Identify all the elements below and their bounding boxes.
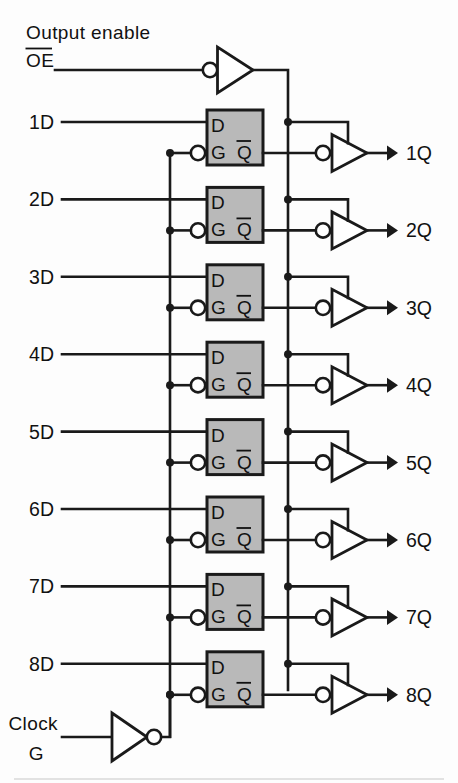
q-output-arrow-icon	[387, 300, 398, 315]
output-enable-label: Output enable	[26, 22, 151, 43]
input-label-3d: 3D	[29, 266, 54, 288]
output-label-2q: 2Q	[406, 219, 432, 241]
latch-gate-bubble	[191, 146, 205, 160]
output-label-1q: 1Q	[406, 142, 432, 164]
latch-pin-d: D	[211, 579, 225, 600]
gate-bus-junction	[166, 226, 174, 234]
latch-pin-qbar: Q	[237, 297, 252, 318]
latch-gate-bubble	[191, 533, 205, 547]
output-enable-pin-label: OE	[26, 50, 54, 71]
output-enable-inverter-bubble	[203, 63, 217, 77]
output-enable-bus-junction	[284, 428, 292, 436]
output-enable-bus-junction	[284, 195, 292, 203]
latch-pin-qbar: Q	[237, 219, 252, 240]
output-enable-bus-junction	[284, 350, 292, 358]
latch-gate-bubble	[191, 378, 205, 392]
output-buffer-bubble	[316, 533, 330, 547]
output-label-3q: 3Q	[406, 297, 432, 319]
gate-bus-junction	[166, 613, 174, 621]
latch-stage: DGQ	[62, 187, 398, 249]
gate-bus-junction	[166, 459, 174, 467]
latch-pin-d: D	[211, 115, 225, 136]
output-label-6q: 6Q	[406, 529, 432, 551]
latch-pin-g: G	[211, 142, 226, 163]
output-buffer-icon	[332, 135, 367, 172]
q-output-arrow-icon	[387, 533, 398, 548]
latch-stage: DGQ	[62, 574, 398, 636]
output-buffer-icon	[332, 444, 367, 481]
output-enable-bus-junction	[284, 660, 292, 668]
output-label-5q: 5Q	[406, 452, 432, 474]
output-enable-bus-junction	[284, 118, 292, 126]
latch-stage: DGQ	[62, 652, 398, 714]
clock-inverter-bubble	[147, 730, 161, 744]
latch-pin-qbar: Q	[237, 529, 252, 550]
output-enable-bus-junction	[284, 273, 292, 281]
input-label-5d: 5D	[29, 421, 54, 443]
input-label-6d: 6D	[29, 498, 54, 520]
logic-diagram-canvas: DGQDGQDGQDGQDGQDGQDGQDGQ 1D1Q2D2Q3D3Q4D4…	[0, 0, 458, 783]
output-enable-bus-junction	[284, 582, 292, 590]
output-enable-bus-junction	[284, 505, 292, 513]
clock-pin-label: G	[29, 743, 44, 764]
input-label-8d: 8D	[29, 653, 54, 675]
q-output-arrow-icon	[387, 610, 398, 625]
q-output-arrow-icon	[387, 378, 398, 393]
clock-label: Clock	[8, 713, 58, 734]
latch-stage: DGQ	[62, 420, 398, 482]
latch-gate-bubble	[191, 223, 205, 237]
output-buffer-icon	[332, 367, 367, 404]
latch-pin-qbar: Q	[237, 142, 252, 163]
latch-stage: DGQ	[62, 497, 398, 559]
latch-pin-g: G	[211, 219, 226, 240]
q-output-arrow-icon	[387, 146, 398, 161]
output-enable-inverter-icon	[218, 47, 254, 93]
output-buffer-bubble	[316, 378, 330, 392]
latch-stage-layer: DGQDGQDGQDGQDGQDGQDGQDGQ	[62, 110, 398, 737]
clock-section	[62, 693, 170, 761]
gate-bus-junction	[166, 149, 174, 157]
input-label-1d: 1D	[29, 111, 54, 133]
latch-pin-g: G	[211, 529, 226, 550]
logic-diagram-root: DGQDGQDGQDGQDGQDGQDGQDGQ 1D1Q2D2Q3D3Q4D4…	[0, 0, 458, 783]
latch-gate-bubble	[191, 455, 205, 469]
latch-pin-d: D	[211, 270, 225, 291]
q-output-arrow-icon	[387, 455, 398, 470]
output-buffer-icon	[332, 522, 367, 559]
latch-pin-d: D	[211, 502, 225, 523]
latch-pin-d: D	[211, 192, 225, 213]
clock-gate-bus-junction	[166, 691, 174, 699]
output-buffer-bubble	[316, 301, 330, 315]
output-buffer-bubble	[316, 146, 330, 160]
latch-pin-g: G	[211, 684, 226, 705]
latch-gate-bubble	[191, 688, 205, 702]
output-buffer-bubble	[316, 455, 330, 469]
q-output-arrow-icon	[387, 687, 398, 702]
output-buffer-icon	[332, 289, 367, 326]
output-buffer-icon	[332, 599, 367, 636]
output-buffer-bubble	[316, 223, 330, 237]
input-label-4d: 4D	[29, 343, 54, 365]
latch-gate-bubble	[191, 610, 205, 624]
latch-stage: DGQ	[62, 265, 398, 327]
output-label-7q: 7Q	[406, 606, 432, 628]
gate-bus-junction	[166, 381, 174, 389]
latch-pin-g: G	[211, 374, 226, 395]
latch-stage: DGQ	[62, 342, 398, 404]
latch-pin-qbar: Q	[237, 684, 252, 705]
latch-pin-qbar: Q	[237, 606, 252, 627]
latch-pin-qbar: Q	[237, 374, 252, 395]
gate-bus-junction	[166, 536, 174, 544]
latch-pin-g: G	[211, 452, 226, 473]
input-label-7d: 7D	[29, 575, 54, 597]
latch-stage: DGQ	[62, 110, 398, 172]
input-label-2d: 2D	[29, 188, 54, 210]
q-output-arrow-icon	[387, 223, 398, 238]
output-buffer-bubble	[316, 610, 330, 624]
clock-inverter-icon	[112, 713, 147, 761]
output-buffer-icon	[332, 212, 367, 249]
latch-pin-g: G	[211, 297, 226, 318]
output-buffer-icon	[332, 676, 367, 713]
latch-pin-d: D	[211, 425, 225, 446]
latch-pin-d: D	[211, 657, 225, 678]
